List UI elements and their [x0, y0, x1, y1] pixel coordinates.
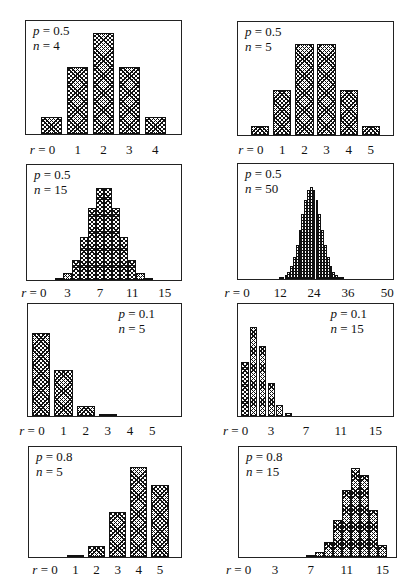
bar-r-1: [54, 370, 72, 416]
n-value: n = 15: [34, 182, 71, 197]
x-tick-label: 3: [323, 142, 330, 158]
x-tick-label: r = 0: [224, 285, 249, 301]
x-tick-label: 24: [308, 285, 321, 301]
plot-area: p = 0.1n = 5: [27, 303, 182, 417]
x-tick-label: r = 0: [223, 423, 248, 439]
bar-r-14: [369, 510, 378, 557]
x-tick-label: 3: [105, 423, 112, 439]
x-tick-label: 15: [376, 562, 389, 578]
bar-r-9: [324, 542, 333, 557]
x-tick-label: r = 0: [19, 423, 44, 439]
p-value: p = 0.8: [36, 449, 73, 464]
bar-r-4: [72, 260, 80, 280]
x-tick-label: r = 0: [30, 142, 55, 158]
parameter-label: p = 0.1n = 15: [330, 306, 367, 336]
bar-r-15: [378, 545, 387, 557]
x-tick-label: 11: [334, 423, 347, 439]
x-tick-label: r = 0: [238, 142, 263, 158]
bar-r-7: [96, 188, 104, 280]
x-tick-label: 1: [74, 142, 81, 158]
bar-r-5: [80, 237, 88, 280]
bar-r-2: [259, 346, 266, 416]
x-tick-label: 7: [97, 285, 104, 301]
bar-r-8: [104, 188, 112, 280]
x-tick-label: 3: [64, 285, 71, 301]
bar-r-1: [273, 90, 291, 135]
p-value: p = 0.1: [118, 306, 155, 321]
bar-r-5: [151, 485, 168, 557]
bar-r-8: [315, 552, 324, 557]
p-value: p = 0.5: [33, 23, 70, 38]
bar-r-3: [119, 67, 140, 134]
x-tick-label: r = 0: [21, 285, 46, 301]
bar-r-1: [67, 67, 88, 134]
plot-area: p = 0.5n = 5: [237, 21, 394, 136]
n-value: n = 5: [118, 321, 155, 336]
x-tick-label: 3: [272, 562, 279, 578]
bar-r-10: [120, 237, 128, 280]
p-value: p = 0.1: [330, 306, 367, 321]
x-tick-label: 11: [126, 285, 139, 301]
n-value: n = 5: [36, 464, 73, 479]
parameter-label: p = 0.5n = 5: [245, 24, 282, 54]
x-tick-label: 15: [369, 423, 382, 439]
plot-area: p = 0.8n = 15: [238, 446, 397, 558]
bar-r-4: [145, 117, 166, 134]
x-tick-label: 2: [93, 562, 100, 578]
p-value: p = 0.5: [245, 166, 282, 181]
bar-r-12: [136, 273, 144, 280]
bar-r-3: [317, 44, 335, 135]
parameter-label: p = 0.5n = 50: [245, 166, 282, 196]
parameter-label: p = 0.8n = 5: [36, 449, 73, 479]
x-tick-label: 11: [340, 562, 353, 578]
x-tick-label: 5: [149, 423, 156, 439]
bar-r-5: [362, 126, 380, 135]
x-tick-label: 2: [82, 423, 89, 439]
bar-r-6: [88, 208, 96, 280]
bar-r-2: [88, 546, 105, 557]
x-tick-label: 15: [158, 285, 171, 301]
bar-r-3: [109, 512, 126, 557]
x-tick-label: 50: [381, 285, 394, 301]
x-tick-label: 4: [127, 423, 134, 439]
bar-r-3: [99, 414, 117, 416]
x-tick-label: 2: [100, 142, 107, 158]
bar-r-12: [351, 468, 360, 557]
plot-area: p = 0.5n = 50: [237, 163, 394, 280]
bar-r-11: [342, 490, 351, 557]
bar-r-10: [333, 520, 342, 557]
n-value: n = 15: [246, 464, 283, 479]
x-tick-label: 2: [301, 142, 308, 158]
bar-r-2: [55, 278, 63, 280]
n-value: n = 50: [245, 181, 282, 196]
x-tick-label: 1: [72, 562, 79, 578]
p-value: p = 0.8: [246, 449, 283, 464]
p-value: p = 0.5: [245, 24, 282, 39]
x-tick-label: 3: [268, 423, 275, 439]
bar-r-1: [67, 555, 84, 557]
x-tick-label: 1: [60, 423, 67, 439]
plot-area: p = 0.8n = 5: [28, 446, 182, 558]
x-tick-label: 36: [341, 285, 354, 301]
bar-r-3: [63, 273, 71, 280]
x-tick-label: 1: [279, 142, 286, 158]
bar-r-2: [93, 33, 114, 134]
p-value: p = 0.5: [34, 167, 71, 182]
parameter-label: p = 0.1n = 5: [118, 306, 155, 336]
n-value: n = 15: [330, 321, 367, 336]
bar-r-5: [285, 413, 292, 416]
bar-r-11: [128, 260, 136, 280]
bar-r-2: [295, 44, 313, 135]
plot-area: p = 0.5n = 15: [26, 164, 182, 281]
bar-r-7: [306, 555, 315, 557]
bar-r-34: [341, 277, 344, 279]
x-tick-label: 5: [157, 562, 164, 578]
bar-r-0: [241, 362, 248, 416]
x-tick-label: 5: [368, 142, 375, 158]
x-tick-label: 3: [114, 562, 121, 578]
bar-r-4: [130, 467, 147, 557]
x-tick-label: r = 0: [226, 562, 251, 578]
x-tick-label: 4: [152, 142, 159, 158]
parameter-label: p = 0.8n = 15: [246, 449, 283, 479]
x-tick-label: 12: [274, 285, 287, 301]
